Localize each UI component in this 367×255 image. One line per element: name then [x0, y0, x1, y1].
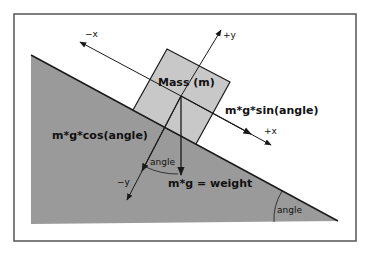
weight-label: m*g = weight — [168, 178, 252, 189]
neg-x-label: −x — [85, 30, 98, 39]
normal-force-label: m*g*cos(angle) — [52, 130, 148, 141]
pos-x-label: +x — [264, 127, 277, 136]
mass-label: Mass (m) — [158, 77, 215, 88]
angle-label-weight: angle — [150, 158, 175, 167]
diagram-canvas — [0, 0, 367, 255]
pos-y-label: +y — [223, 31, 236, 40]
parallel-force-label: m*g*sin(angle) — [225, 105, 318, 116]
neg-y-label: −y — [117, 178, 130, 187]
angle-label-incline: angle — [277, 206, 302, 215]
